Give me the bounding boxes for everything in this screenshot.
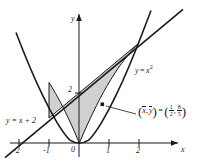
parabola-eq: = (140, 66, 145, 75)
x-tick-label-neg1: -1 (43, 147, 50, 155)
centroid-equals: = (158, 106, 163, 115)
centroid-y-numerator: 8 (177, 104, 182, 111)
y-axis-label: y (71, 15, 75, 23)
line-curve (5, 9, 183, 157)
x-tick-label-1: 1 (106, 147, 110, 155)
centroid-close-paren-2: ) (182, 104, 186, 119)
centroid-y-fraction: 8 5 (177, 104, 182, 118)
centroid-x-numerator: 1 (169, 104, 174, 111)
origin-tick-label: 0 (71, 146, 75, 154)
y-axis-arrow (76, 14, 82, 21)
centroid-comma-1: , (146, 106, 148, 115)
parabola-lhs: y (135, 66, 139, 75)
centroid-xbar: x (142, 107, 146, 115)
x-tick-label-2: 2 (136, 147, 140, 155)
line-equation-label: y = x + 2 (6, 117, 36, 125)
centroid-comma-2: , (174, 106, 176, 115)
centroid-annotation-label: (x,y)=( 1 2 , 8 5 ) (138, 104, 186, 118)
centroid-x-fraction: 1 2 (169, 104, 174, 118)
centroid-point (101, 103, 105, 107)
centroid-close-paren-1: ) (152, 104, 156, 119)
y-tick-label-2: 2 (68, 86, 72, 94)
parabola-exponent: 2 (150, 64, 153, 70)
x-tick-label-neg2: -2 (13, 147, 20, 155)
centroid-y-denominator: 5 (177, 111, 182, 117)
centroid-x-denominator: 2 (169, 111, 174, 117)
x-axis-arrow (171, 140, 178, 146)
figure-canvas: y x 0 -2 -1 1 2 2 y=x2 y = x + 2 (x,y)=(… (0, 0, 201, 167)
x-axis-label: x (181, 146, 185, 154)
parabola-equation-label: y=x2 (135, 64, 153, 75)
centroid-leader-line (106, 106, 136, 114)
graph-svg (0, 0, 201, 167)
